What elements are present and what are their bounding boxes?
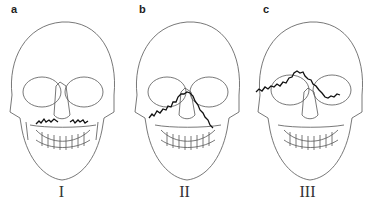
- skull-le-fort-1-illustration: [0, 0, 123, 206]
- fracture-type-label-3: III: [246, 183, 369, 201]
- fracture-type-label-1: I: [0, 183, 123, 201]
- fracture-type-label-2: II: [123, 183, 246, 201]
- skull-le-fort-2-illustration: [123, 0, 246, 206]
- skull-le-fort-3-illustration: [246, 0, 369, 206]
- panel-c: c III: [246, 0, 369, 206]
- panel-b: b II: [123, 0, 246, 206]
- panel-a: a I: [0, 0, 123, 206]
